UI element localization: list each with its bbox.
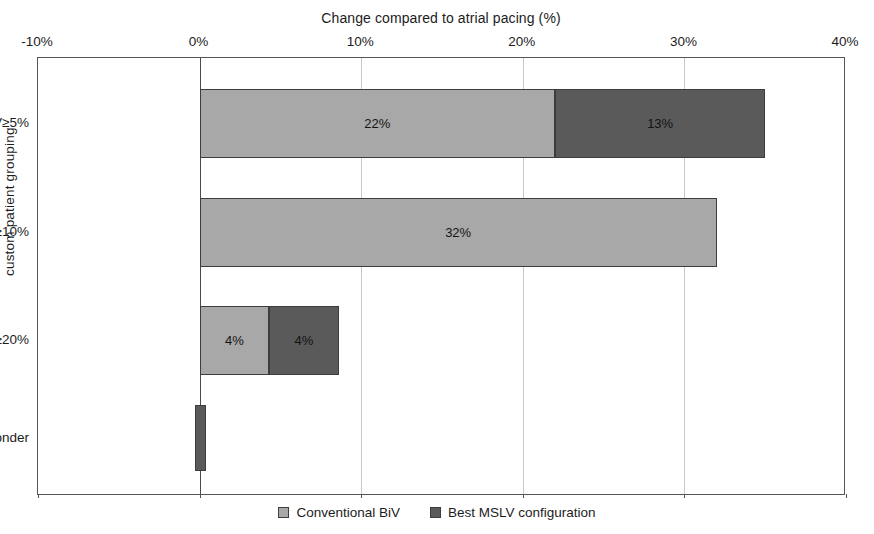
- bar-value-label: 4%: [294, 333, 313, 348]
- x-tick-mark: [361, 494, 362, 498]
- bar-segment[interactable]: [195, 405, 206, 471]
- legend-swatch-icon: [430, 507, 441, 518]
- bar-segment[interactable]: 32%: [200, 198, 717, 267]
- legend-item[interactable]: Conventional BiV: [278, 505, 400, 520]
- y-category-label: Relative MSLV≥20%: [0, 332, 29, 347]
- chart-figure: Change compared to atrial pacing (%) -10…: [0, 0, 874, 534]
- legend-swatch-icon: [278, 507, 289, 518]
- x-tick-mark: [38, 494, 39, 498]
- chart-title: Change compared to atrial pacing (%): [37, 10, 845, 26]
- x-tick-label: -10%: [21, 34, 53, 49]
- x-tick-label: 30%: [670, 34, 697, 49]
- chart-legend: Conventional BiVBest MSLV configuration: [0, 505, 874, 520]
- x-tick-label: 40%: [831, 34, 858, 49]
- bar-row: 22%13%: [38, 89, 844, 158]
- x-tick-mark: [200, 494, 201, 498]
- bar-row: 4%4%: [38, 306, 844, 375]
- bar-value-label: 13%: [647, 116, 673, 131]
- x-tick-label: 0%: [189, 34, 209, 49]
- legend-item[interactable]: Best MSLV configuration: [430, 505, 596, 520]
- y-category-label: Non-responder: [0, 430, 29, 445]
- plot-area: 22%13%32%4%4%: [37, 57, 845, 495]
- legend-label: Conventional BiV: [296, 505, 400, 520]
- bar-segment[interactable]: 13%: [555, 89, 765, 158]
- x-tick-label: 10%: [347, 34, 374, 49]
- y-axis-title: custom patient grouping: [2, 127, 17, 276]
- bar-value-label: 22%: [364, 116, 390, 131]
- bar-row: [38, 405, 844, 471]
- x-tick-label: 20%: [508, 34, 535, 49]
- legend-label: Best MSLV configuration: [448, 505, 596, 520]
- bar-segment[interactable]: 4%: [269, 306, 338, 375]
- x-tick-mark: [846, 494, 847, 498]
- x-tick-mark: [523, 494, 524, 498]
- bar-value-label: 4%: [225, 333, 244, 348]
- bar-row: 32%: [38, 198, 844, 267]
- bar-segment[interactable]: 4%: [200, 306, 269, 375]
- bar-segment[interactable]: 22%: [200, 89, 556, 158]
- bar-value-label: 32%: [445, 225, 471, 240]
- x-tick-mark: [684, 494, 685, 498]
